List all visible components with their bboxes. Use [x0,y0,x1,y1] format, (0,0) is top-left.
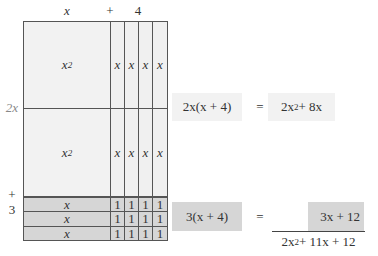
tile-x: x [139,109,153,197]
tile-x: x [125,109,139,197]
tile-one: 1 [125,197,139,212]
label-side-plus: + [2,187,22,203]
tile-x: x [111,22,125,109]
equation-2-lhs: 3(x + 4) [172,202,242,231]
tile-one: 1 [153,227,168,241]
tile-one: 1 [125,227,139,241]
tile-x: x [139,22,153,109]
tile-x-row: x [24,197,111,212]
equation-1-lhs: 2x(x + 4) [172,93,242,121]
tile-x: x [111,109,125,197]
label-top-x: x [55,3,79,19]
tile-one: 1 [153,197,168,212]
tile-x: x [153,22,168,109]
area-model: x2 x2 x x x x x x x x x x x 1 1 1 1 1 1 … [23,21,168,241]
tile-x-row: x [24,227,111,241]
sum-result: 2x2 + 11x + 12 [272,233,365,251]
tile-one: 1 [111,197,125,212]
tile-x-squared-1: x2 [24,22,111,109]
tile-one: 1 [139,227,153,241]
tile-x: x [153,109,168,197]
tile-x-squared-2: x2 [24,109,111,197]
label-side-2x: 2x [2,100,22,116]
tile-one: 1 [111,227,125,241]
equation-1-rhs: 2x2 + 8x [268,93,335,121]
label-top-four: 4 [128,3,148,19]
equation-2-equals: = [245,202,275,231]
label-top-plus: + [100,3,120,19]
sum-line [272,231,365,232]
tile-one: 1 [139,197,153,212]
equation-2-rhs: 3x + 12 [308,202,364,231]
label-side-three: 3 [2,202,22,218]
tile-x: x [125,22,139,109]
